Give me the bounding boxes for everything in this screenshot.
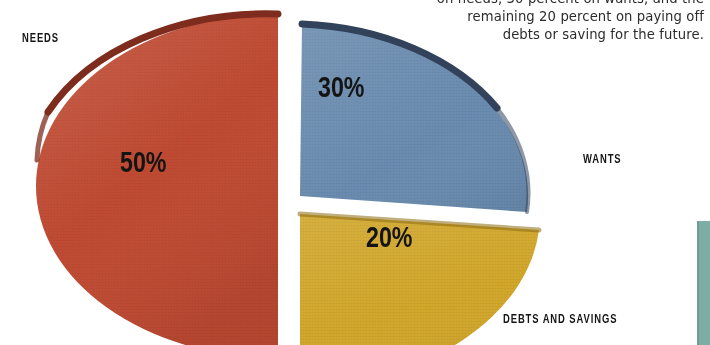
pie-chart-svg xyxy=(0,0,710,345)
pie-category-label-debts: DEBTS AND SAVINGS xyxy=(503,311,617,325)
pie-category-label-wants: WANTS xyxy=(583,151,622,165)
intro-paragraph-line-1: on needs, 30 percent on wants, and the xyxy=(374,0,704,8)
teal-accent-bar xyxy=(697,221,710,345)
pie-chart xyxy=(0,0,710,345)
intro-paragraph-line-2: remaining 20 percent on paying off xyxy=(374,8,704,26)
pie-slice-debts-sheen xyxy=(300,214,539,345)
pie-category-label-needs: NEEDS xyxy=(22,30,59,44)
pie-data-label-wants: 30% xyxy=(318,70,364,105)
intro-paragraph: on needs, 30 percent on wants, and the r… xyxy=(374,0,704,45)
illustration-canvas: 50% 30% 20% NEEDS WANTS DEBTS AND SAVING… xyxy=(0,0,710,345)
pie-data-label-needs: 50% xyxy=(120,145,166,180)
pie-data-label-debts: 20% xyxy=(366,220,412,255)
intro-paragraph-line-3: debts or saving for the future. xyxy=(374,26,704,44)
